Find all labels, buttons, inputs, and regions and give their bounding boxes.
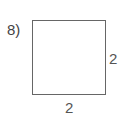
side-length-bottom: 2 [65,100,73,115]
problem-number: 8) [7,22,20,37]
square-shape [32,20,106,95]
side-length-right: 2 [109,51,117,66]
